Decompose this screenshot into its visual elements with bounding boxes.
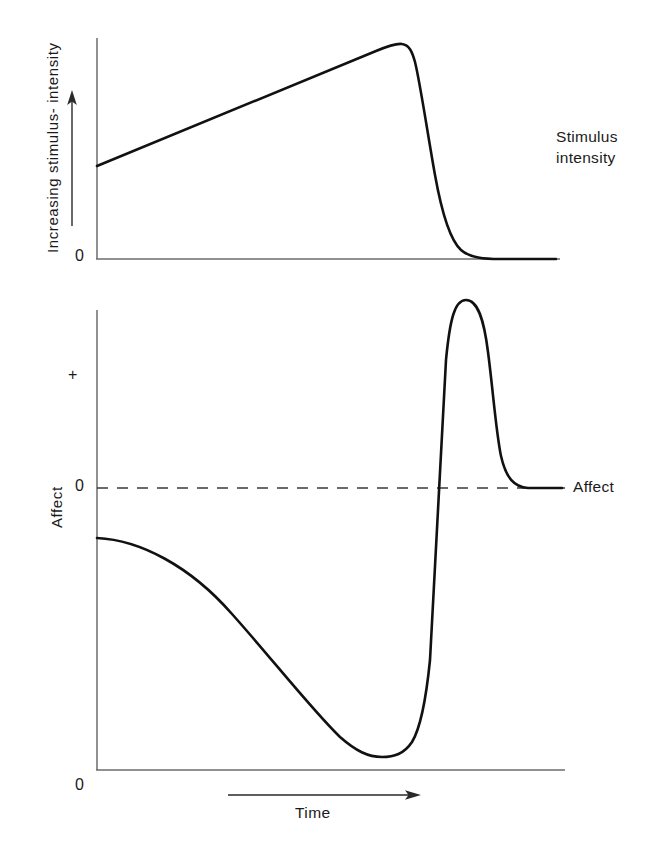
top-panel [96, 38, 560, 259]
top-origin-label: 0 [75, 247, 84, 266]
bottom-y-axis-label: Affect [48, 486, 66, 528]
bottom-panel [96, 300, 565, 770]
affect-zero-tick-label: 0 [75, 477, 84, 496]
time-axis-label: Time [295, 804, 330, 822]
bottom-origin-label: 0 [75, 776, 84, 795]
up-arrow-icon [67, 90, 77, 226]
affect-label: Affect [573, 478, 614, 496]
affect-curve [97, 300, 562, 757]
affect-positive-tick-label: + [68, 366, 78, 385]
stimulus-intensity-label-line2: intensity [556, 149, 616, 167]
top-y-axis-label: Increasing stimulus- intensity [44, 42, 62, 253]
right-arrow-icon [228, 790, 421, 799]
stimulus-intensity-label-line1: Stimulus [556, 128, 618, 146]
stimulus-intensity-curve [97, 44, 556, 259]
figure-container: Increasing stimulus- intensity 0 Stimulu… [0, 0, 654, 849]
